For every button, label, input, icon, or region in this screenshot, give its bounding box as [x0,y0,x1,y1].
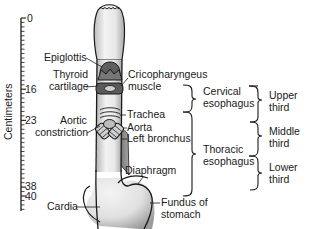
region-thoracic-line1: Thoracic [203,143,243,155]
ruler-title: Centimeters [2,83,14,140]
pharynx [94,5,124,60]
left-labels: Epiglottis Thyroid cartilage Aortic cons… [35,51,102,212]
centimeter-ruler: 0 16 23 38 40 Centimeters [2,12,37,211]
esophagus-left-wall [96,60,97,172]
cricopharyngeus-lumen [105,86,116,92]
third-middle-line2: third [269,137,290,149]
label-diaphragm: Diaphragm [125,164,177,176]
label-thyroid-line1: Thyroid [53,68,88,80]
ruler-label-23: 23 [25,114,37,126]
label-aortic-line2: constriction [35,126,88,138]
third-lower-line2: third [269,173,290,185]
thoracic-bracket [183,112,196,196]
label-fundus-line1: Fundus of [161,196,208,208]
label-cardia: Cardia [47,200,78,212]
region-cervical-line1: Cervical [203,85,241,97]
ruler-label-16: 16 [25,83,37,95]
label-aortic-line1: Aortic [60,114,87,126]
cervical-bracket [183,85,196,112]
esophagus-diagram: 0 16 23 38 40 Centimeters [0,0,311,229]
third-upper-line2: third [269,101,290,113]
region-cervical-line2: esophagus [203,97,254,109]
label-cricopharyngeus-line1: Cricopharyngeus [128,68,207,80]
label-left-bronchus: Left bronchus [127,132,191,144]
third-lower-line1: Lower [269,161,298,173]
label-trachea: Trachea [127,108,165,120]
label-cricopharyngeus-line2: muscle [128,80,161,92]
thyroid-cartilage-structure [98,69,122,80]
ruler-label-0: 0 [27,12,33,24]
third-upper-line1: Upper [269,89,298,101]
region-thoracic-line2: esophagus [203,155,254,167]
ruler-label-40: 40 [25,190,37,202]
label-thyroid-line2: cartilage [49,80,89,92]
esophagus [94,5,125,172]
middle-third-bracket [249,122,262,156]
stomach [83,170,154,229]
third-middle-line1: Middle [269,125,300,137]
label-epiglottis: Epiglottis [44,51,87,63]
label-fundus-line2: stomach [161,208,201,220]
